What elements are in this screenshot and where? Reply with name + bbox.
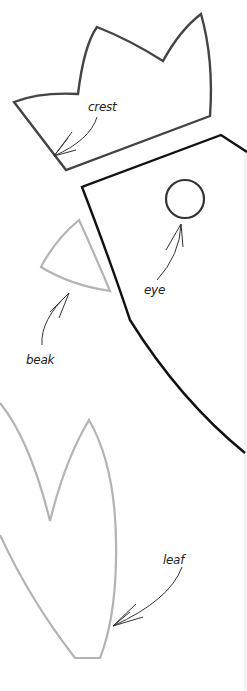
- leaf-arrow-icon: [113, 567, 182, 626]
- beak-label: beak: [26, 353, 54, 367]
- crest-label: crest: [88, 100, 116, 114]
- eye-circle: [166, 180, 204, 218]
- eye-label: eye: [144, 283, 165, 297]
- beak-arrow-icon: [42, 293, 69, 345]
- leaf-shape: [0, 403, 116, 658]
- crest-arrow-icon: [54, 117, 97, 156]
- leaf-label: leaf: [163, 553, 184, 567]
- crest-shape: [14, 14, 211, 170]
- eye-arrow-icon: [157, 224, 183, 280]
- template-canvas: crest eye beak leaf: [0, 0, 247, 691]
